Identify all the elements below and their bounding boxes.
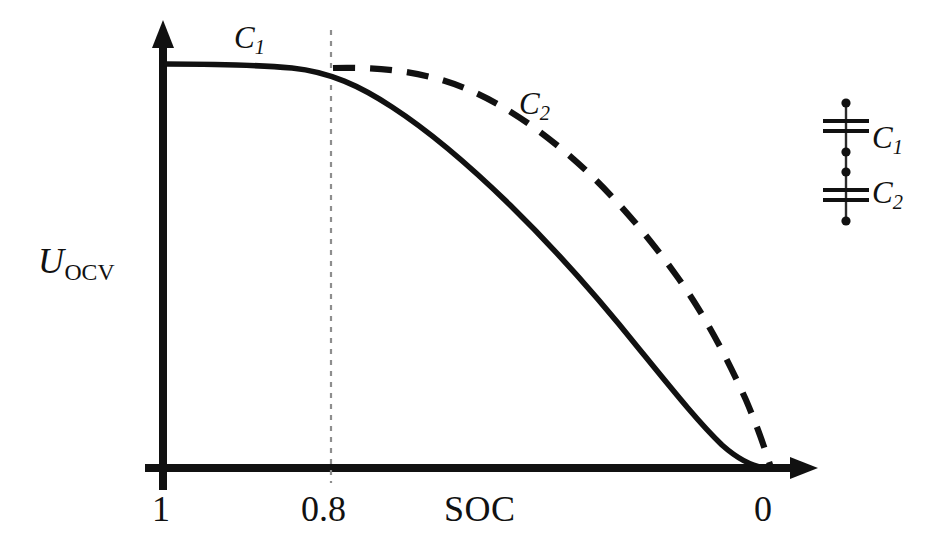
legend-label-c2: C2 [872,177,903,208]
legend-label-c1-subscript: 1 [893,136,903,158]
curve-c2-path [333,68,771,468]
x-axis-arrowhead [790,457,818,479]
legend-node-dot-mid-lower [841,167,850,176]
curve-label-c2: C2 [519,88,550,119]
curve-label-c2-subscript: 2 [540,102,550,124]
legend-label-c2-subscript: 2 [893,191,903,213]
y-axis-label-subscript: OCV [64,259,114,285]
y-axis-arrowhead [152,20,174,48]
x-tick-label-point-eight: 0.8 [301,491,346,527]
curve-c1-path [166,64,770,468]
figure-root: UOCV C1 C2 1 0.8 SOC 0 C1 C2 [0,0,943,560]
legend-node-dot-mid-upper [841,147,850,156]
curve-label-c2-main: C [519,86,540,121]
capacitor-legend-symbols [823,98,869,225]
x-axis-label: SOC [444,491,516,527]
curve-label-c1-main: C [234,20,255,55]
legend-label-c2-main: C [872,175,893,210]
legend-label-c1-main: C [872,120,893,155]
x-tick-label-one: 1 [152,491,170,527]
legend-node-dot-top [841,98,850,107]
x-axis [145,457,818,479]
ocv-soc-plot [0,0,943,560]
x-tick-label-zero: 0 [754,491,772,527]
y-axis-label-main: U [38,241,64,281]
curve-label-c1: C1 [234,22,265,53]
y-axis-label: UOCV [38,243,114,279]
y-axis [152,20,174,490]
curve-label-c1-subscript: 1 [255,36,265,58]
legend-label-c1: C1 [872,122,903,153]
legend-node-dot-bottom [841,216,850,225]
